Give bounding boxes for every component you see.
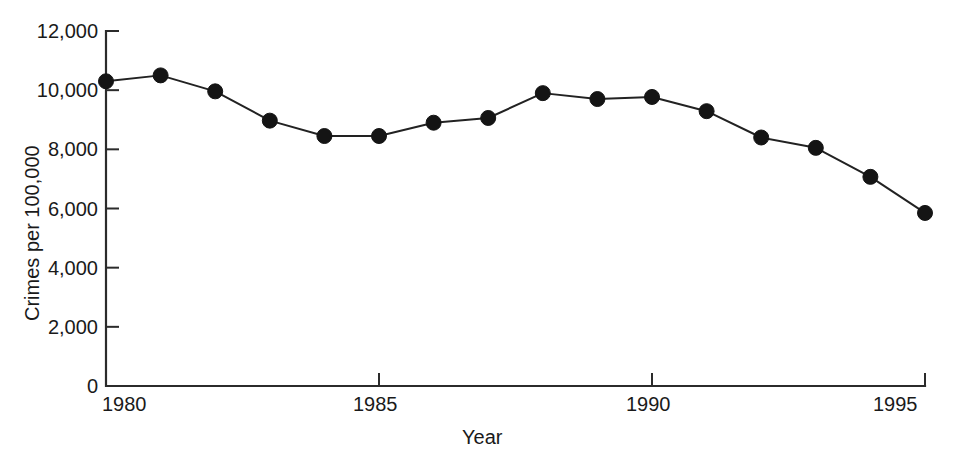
data-point-1988	[535, 86, 550, 101]
data-point-1986	[426, 115, 441, 130]
data-point-1984	[317, 129, 332, 144]
series-markers	[99, 68, 933, 221]
data-point-1987	[481, 110, 496, 125]
data-point-1991	[699, 104, 714, 119]
x-tick-label-1990: 1990	[626, 394, 671, 414]
y-tick-label-0: 0	[10, 376, 98, 396]
data-point-1989	[590, 92, 605, 107]
chart-tick-marks	[106, 31, 925, 386]
axis-spine	[106, 31, 925, 386]
x-tick-label-1985: 1985	[353, 394, 398, 414]
data-point-1990	[645, 89, 660, 104]
data-point-1981	[153, 68, 168, 83]
data-point-1985	[372, 129, 387, 144]
y-tick-label-10000: 10,000	[10, 80, 98, 100]
x-tick-label-1995: 1995	[873, 394, 918, 414]
data-point-1995	[918, 205, 933, 220]
y-tick-label-12000: 12,000	[10, 21, 98, 41]
line-chart: 0 2,000 4,000 6,000 8,000 10,000 12,000 …	[0, 0, 962, 458]
data-point-1983	[262, 113, 277, 128]
data-point-1982	[208, 84, 223, 99]
data-point-1993	[808, 140, 823, 155]
x-tick-label-1980: 1980	[102, 394, 147, 414]
chart-axes	[106, 31, 925, 386]
chart-plot-area	[0, 0, 962, 458]
series-line-crimes	[106, 75, 925, 213]
x-axis-title: Year	[462, 427, 502, 447]
y-axis-title: Crimes per 100,000	[22, 145, 42, 321]
data-point-1980	[99, 74, 114, 89]
data-point-1994	[863, 169, 878, 184]
data-point-1992	[754, 130, 769, 145]
